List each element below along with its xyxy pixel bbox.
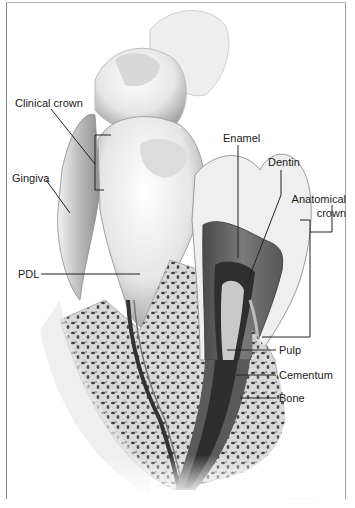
label-anatomical-crown-line2: crown (286, 207, 346, 219)
gingiva-shape (58, 114, 100, 300)
label-bone: Bone (279, 392, 305, 404)
label-anatomical-crown-line1: Anatomical (286, 193, 346, 205)
figure-credit: ···· ·· · (290, 500, 316, 506)
label-dentin: Dentin (268, 156, 300, 168)
upper-teeth (95, 11, 229, 133)
label-pulp: Pulp (279, 344, 301, 356)
label-cementum: Cementum (279, 369, 333, 381)
label-gingiva: Gingiva (12, 172, 49, 184)
label-enamel: Enamel (223, 132, 260, 144)
label-clinical-crown: Clinical crown (15, 97, 83, 109)
tooth-illustration (0, 0, 355, 508)
label-pdl: PDL (18, 268, 39, 280)
